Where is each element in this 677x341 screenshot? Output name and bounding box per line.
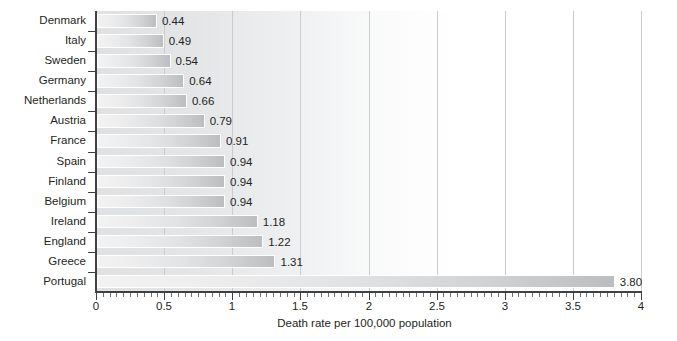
x-axis-minor-tick bbox=[116, 293, 117, 297]
x-axis-minor-tick bbox=[260, 293, 261, 297]
category-label-netherlands: Netherlands bbox=[0, 91, 86, 111]
x-axis-minor-tick bbox=[157, 293, 158, 297]
y-axis-tick bbox=[88, 71, 95, 72]
x-axis-major-tick bbox=[641, 293, 642, 300]
x-axis-minor-tick bbox=[600, 293, 601, 297]
x-axis-minor-tick bbox=[416, 293, 417, 297]
x-axis-minor-tick bbox=[321, 293, 322, 297]
bar-value-portugal: 3.80 bbox=[620, 274, 642, 290]
x-axis-minor-tick bbox=[532, 293, 533, 297]
x-axis-minor-tick bbox=[403, 293, 404, 297]
x-axis-minor-tick bbox=[253, 293, 254, 297]
x-axis-minor-tick bbox=[593, 293, 594, 297]
bar-row: Belgium0.94 bbox=[0, 192, 677, 212]
x-axis-minor-tick bbox=[559, 293, 560, 297]
category-label-portugal: Portugal bbox=[0, 272, 86, 292]
x-axis-minor-tick bbox=[123, 293, 124, 297]
category-label-spain: Spain bbox=[0, 152, 86, 172]
y-axis-tick bbox=[88, 152, 95, 153]
x-axis-label-3: 3 bbox=[502, 300, 508, 312]
x-axis-minor-tick bbox=[219, 293, 220, 297]
y-axis-tick bbox=[88, 252, 95, 253]
x-axis-minor-tick bbox=[389, 293, 390, 297]
category-label-finland: Finland bbox=[0, 172, 86, 192]
bar-greece bbox=[97, 255, 275, 269]
bar-row: Italy0.49 bbox=[0, 31, 677, 51]
x-axis-label-3.5: 3.5 bbox=[565, 300, 581, 312]
x-axis-minor-tick bbox=[185, 293, 186, 297]
bar-row: Netherlands0.66 bbox=[0, 91, 677, 111]
x-axis-major-tick bbox=[232, 293, 233, 300]
x-axis-label-2.5: 2.5 bbox=[429, 300, 445, 312]
x-axis-minor-tick bbox=[307, 293, 308, 297]
x-axis-minor-tick bbox=[423, 293, 424, 297]
y-axis-tick bbox=[88, 131, 95, 132]
bar-value-belgium: 0.94 bbox=[230, 194, 252, 210]
bar-belgium bbox=[97, 195, 225, 209]
bar-value-netherlands: 0.66 bbox=[192, 93, 214, 109]
x-axis-minor-tick bbox=[287, 293, 288, 297]
bar-sweden bbox=[97, 54, 171, 68]
x-axis-minor-tick bbox=[607, 293, 608, 297]
x-axis-minor-tick bbox=[225, 293, 226, 297]
x-axis-major-tick bbox=[96, 293, 97, 300]
x-axis-minor-tick bbox=[627, 293, 628, 297]
bar-denmark bbox=[97, 14, 157, 28]
x-axis-minor-tick bbox=[334, 293, 335, 297]
x-axis-minor-tick bbox=[198, 293, 199, 297]
bar-value-england: 1.22 bbox=[268, 234, 290, 250]
y-axis-tick bbox=[88, 91, 95, 92]
x-axis-minor-tick bbox=[471, 293, 472, 297]
bar-row: Sweden0.54 bbox=[0, 51, 677, 71]
x-axis-minor-tick bbox=[518, 293, 519, 297]
x-axis-minor-tick bbox=[464, 293, 465, 297]
bar-value-spain: 0.94 bbox=[230, 154, 252, 170]
x-axis-minor-tick bbox=[566, 293, 567, 297]
x-axis-minor-tick bbox=[634, 293, 635, 297]
x-axis-minor-tick bbox=[430, 293, 431, 297]
bar-row: Austria0.79 bbox=[0, 111, 677, 131]
category-label-france: France bbox=[0, 131, 86, 151]
x-axis-minor-tick bbox=[512, 293, 513, 297]
x-axis-label-1.5: 1.5 bbox=[292, 300, 308, 312]
bar-value-sweden: 0.54 bbox=[176, 53, 198, 69]
x-axis-minor-tick bbox=[552, 293, 553, 297]
bar-france bbox=[97, 134, 221, 148]
x-axis-minor-tick bbox=[355, 293, 356, 297]
y-axis-tick bbox=[88, 31, 95, 32]
x-axis-major-tick bbox=[505, 293, 506, 300]
x-axis-minor-tick bbox=[375, 293, 376, 297]
bar-row: Spain0.94 bbox=[0, 152, 677, 172]
bar-value-italy: 0.49 bbox=[169, 33, 191, 49]
x-axis-label-4: 4 bbox=[638, 300, 644, 312]
bar-spain bbox=[97, 155, 225, 169]
x-axis-title: Death rate per 100,000 population bbox=[0, 317, 677, 329]
x-axis-minor-tick bbox=[348, 293, 349, 297]
x-axis-minor-tick bbox=[151, 293, 152, 297]
y-axis-tick bbox=[88, 192, 95, 193]
x-axis-label-2: 2 bbox=[366, 300, 372, 312]
x-axis-minor-tick bbox=[191, 293, 192, 297]
bar-value-finland: 0.94 bbox=[230, 174, 252, 190]
x-axis-minor-tick bbox=[212, 293, 213, 297]
bar-value-germany: 0.64 bbox=[189, 73, 211, 89]
bar-row: England1.22 bbox=[0, 232, 677, 252]
bar-row: France0.91 bbox=[0, 131, 677, 151]
x-axis-minor-tick bbox=[362, 293, 363, 297]
bar-netherlands bbox=[97, 94, 187, 108]
category-label-ireland: Ireland bbox=[0, 212, 86, 232]
x-axis-minor-tick bbox=[294, 293, 295, 297]
x-axis-minor-tick bbox=[103, 293, 104, 297]
y-axis-tick bbox=[88, 111, 95, 112]
category-label-denmark: Denmark bbox=[0, 11, 86, 31]
x-axis-minor-tick bbox=[586, 293, 587, 297]
bar-value-austria: 0.79 bbox=[210, 113, 232, 129]
x-axis-minor-tick bbox=[457, 293, 458, 297]
x-axis-minor-tick bbox=[144, 293, 145, 297]
x-axis-minor-tick bbox=[396, 293, 397, 297]
x-axis-minor-tick bbox=[450, 293, 451, 297]
x-axis-minor-tick bbox=[273, 293, 274, 297]
x-axis-minor-tick bbox=[266, 293, 267, 297]
x-axis-label-0.5: 0.5 bbox=[156, 300, 172, 312]
category-label-greece: Greece bbox=[0, 252, 86, 272]
